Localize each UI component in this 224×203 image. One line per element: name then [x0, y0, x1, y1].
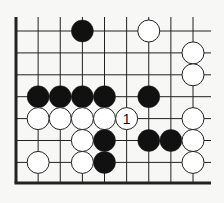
white-stone	[27, 151, 49, 173]
black-stone	[160, 130, 182, 152]
black-stone	[94, 130, 116, 152]
white-stone	[182, 151, 204, 173]
white-stone	[71, 108, 93, 130]
black-stone	[138, 86, 160, 108]
black-stone	[94, 86, 116, 108]
black-stone	[94, 151, 116, 173]
white-stone	[27, 108, 49, 130]
black-stone	[27, 86, 49, 108]
black-stone	[71, 20, 93, 42]
go-board: 1	[0, 0, 224, 203]
move-number-label: 1	[123, 111, 131, 127]
white-stone	[182, 42, 204, 64]
white-stone	[71, 151, 93, 173]
white-stone	[182, 64, 204, 86]
white-stone	[94, 108, 116, 130]
white-stone	[49, 108, 71, 130]
white-stone	[71, 130, 93, 152]
black-stone	[49, 86, 71, 108]
white-stone	[182, 108, 204, 130]
black-stone	[138, 130, 160, 152]
white-stone	[182, 130, 204, 152]
black-stone	[71, 86, 93, 108]
white-stone	[138, 20, 160, 42]
